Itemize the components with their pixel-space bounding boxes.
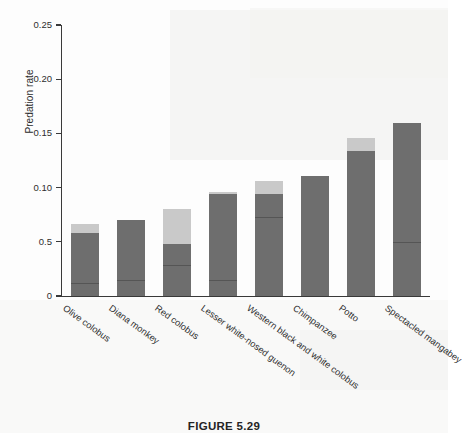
bar-inner-rule: [71, 283, 100, 284]
bar-inner-rule: [209, 280, 238, 281]
bar-segment-lower: [163, 244, 192, 296]
bar[interactable]: [117, 220, 146, 296]
figure-caption: FIGURE 5.29: [0, 420, 448, 433]
x-axis-category-label: Olive colobus: [61, 303, 112, 344]
bar[interactable]: [71, 224, 100, 296]
x-axis-category-label: Potto: [337, 303, 360, 324]
bar-segment-lower: [71, 233, 100, 296]
bar-segment-upper: [71, 224, 100, 233]
y-axis-tick: [56, 241, 61, 242]
bar-segment-lower: [347, 151, 376, 296]
x-axis-category-label: Chimpanzee: [291, 303, 339, 342]
y-axis-tick: [56, 187, 61, 188]
y-axis-tick-label: 0.25: [0, 19, 52, 30]
x-axis-category-label: Lesser white-nosed guenon: [199, 303, 297, 378]
x-axis-line: [61, 296, 430, 297]
x-axis-category-label: Spectacled mangabey: [383, 303, 463, 365]
x-axis-category-label: Red colobus: [153, 303, 201, 341]
bar-segment-lower: [255, 194, 284, 296]
bar-segment-lower: [393, 123, 422, 296]
bar[interactable]: [163, 209, 192, 296]
bar-segment-lower: [301, 176, 330, 296]
bar[interactable]: [255, 181, 284, 296]
bar-segment-lower: [117, 220, 146, 296]
y-axis-title: Predation rate: [24, 37, 35, 167]
bar-inner-rule: [393, 242, 422, 243]
y-axis-tick-label: 0: [0, 290, 52, 301]
bar-segment-upper: [163, 209, 192, 244]
bar[interactable]: [393, 123, 422, 296]
bar-inner-rule: [117, 280, 146, 281]
bar-segment-upper: [255, 181, 284, 194]
y-axis-tick: [56, 295, 61, 296]
bar-segment-upper: [347, 138, 376, 151]
y-axis-tick: [56, 79, 61, 80]
bar[interactable]: [209, 192, 238, 296]
bar-inner-rule: [255, 217, 284, 218]
plot-area: [62, 25, 430, 296]
y-axis-tick: [56, 24, 61, 25]
y-axis-tick: [56, 133, 61, 134]
y-axis-tick-label: 0.5: [0, 236, 52, 247]
y-axis-tick-label: 0.10: [0, 182, 52, 193]
bar-segment-upper: [209, 192, 238, 194]
bar[interactable]: [301, 176, 330, 296]
bar[interactable]: [347, 138, 376, 296]
bar-inner-rule: [163, 265, 192, 266]
